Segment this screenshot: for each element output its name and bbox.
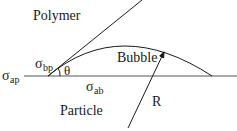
bubble-label: Bubble [117, 50, 157, 65]
sigma-ab-subscript: ab [94, 85, 103, 96]
contact-angle-diagram: Polymer Bubble Particle R θ σ bp σ ap σ … [0, 0, 237, 131]
radius-label: R [152, 94, 162, 109]
sigma-ab-symbol: σ [86, 79, 94, 94]
sigma-ap-symbol: σ [2, 68, 10, 83]
particle-label: Particle [60, 103, 103, 118]
sigma-ap-subscript: ap [10, 74, 19, 85]
theta-angle-arc [58, 68, 60, 76]
polymer-label: Polymer [33, 8, 81, 23]
theta-label: θ [64, 63, 70, 78]
diagram-canvas: Polymer Bubble Particle R θ σ bp σ ap σ … [0, 0, 237, 131]
sigma-bp-symbol: σ [35, 56, 43, 71]
sigma-bp-subscript: bp [43, 62, 53, 73]
